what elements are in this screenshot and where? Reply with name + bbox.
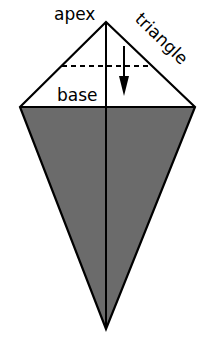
kite-diagram: apex base triangle [0,0,203,344]
apex-label: apex [54,4,95,24]
down-arrow-icon [119,46,129,96]
triangle-label: triangle [131,8,192,68]
base-label: base [57,85,98,105]
lower-shaded-triangle [20,107,195,329]
